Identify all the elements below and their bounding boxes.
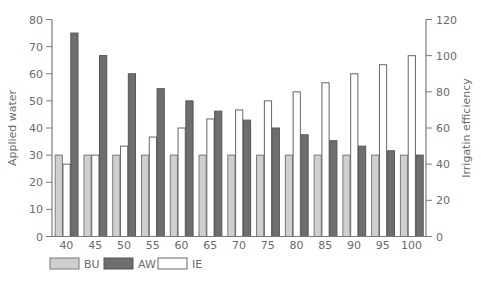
bar-bu-65 bbox=[199, 155, 206, 236]
left-tick-label: 40 bbox=[29, 122, 43, 135]
bar-bu-45 bbox=[84, 155, 91, 236]
bar-aw-65 bbox=[215, 111, 222, 236]
bar-group-55 bbox=[141, 89, 164, 237]
bar-group-85 bbox=[314, 83, 337, 237]
right-tick-label: 20 bbox=[436, 194, 450, 207]
bar-bu-80 bbox=[285, 155, 292, 236]
dual-axis-bar-chart: 01020304050607080 020406080100120 404550… bbox=[0, 0, 481, 284]
legend-label: BU bbox=[84, 258, 100, 271]
bar-ie-55 bbox=[149, 137, 156, 236]
bar-group-80 bbox=[285, 92, 308, 237]
legend-label: IE bbox=[192, 258, 202, 271]
bar-aw-60 bbox=[186, 101, 193, 237]
bar-aw-100 bbox=[416, 155, 423, 236]
legend-swatch bbox=[104, 258, 133, 269]
legend-item-bu: BU bbox=[50, 258, 100, 271]
bar-ie-45 bbox=[92, 155, 99, 236]
right-axis-title: Irrigatin efficiency bbox=[460, 78, 473, 178]
left-tick-label: 30 bbox=[29, 149, 43, 162]
bar-aw-40 bbox=[71, 33, 78, 236]
bar-aw-95 bbox=[387, 151, 394, 237]
bar-bu-55 bbox=[141, 155, 148, 236]
x-tick-label: 80 bbox=[290, 239, 304, 252]
right-tick-label: 0 bbox=[436, 231, 443, 244]
bar-group-45 bbox=[84, 56, 107, 237]
left-tick-label: 70 bbox=[29, 41, 43, 54]
bar-group-65 bbox=[199, 111, 222, 236]
bar-aw-85 bbox=[330, 141, 337, 237]
x-tick-label: 65 bbox=[203, 239, 217, 252]
right-tick-label: 80 bbox=[436, 86, 450, 99]
bar-group-95 bbox=[372, 65, 395, 237]
bar-bu-95 bbox=[372, 155, 379, 236]
bar-group-40 bbox=[55, 33, 78, 236]
bar-group-90 bbox=[343, 74, 366, 237]
x-tick-label: 45 bbox=[88, 239, 102, 252]
bar-bu-40 bbox=[55, 155, 62, 236]
bar-ie-60 bbox=[178, 128, 185, 237]
bar-aw-45 bbox=[100, 56, 107, 237]
left-tick-label: 60 bbox=[29, 68, 43, 81]
bar-aw-80 bbox=[301, 135, 308, 237]
bar-ie-85 bbox=[322, 83, 329, 237]
bar-group-100 bbox=[400, 56, 423, 237]
right-tick-label: 60 bbox=[436, 122, 450, 135]
left-axis-title: Applied water bbox=[6, 89, 19, 166]
right-tick-label: 120 bbox=[436, 14, 457, 27]
bar-group-70 bbox=[228, 110, 251, 237]
bar-ie-50 bbox=[121, 146, 128, 236]
legend-label: AW bbox=[138, 258, 156, 271]
bar-bu-75 bbox=[257, 155, 264, 236]
bar-aw-75 bbox=[272, 128, 279, 237]
bar-ie-90 bbox=[351, 74, 358, 237]
x-tick-label: 85 bbox=[318, 239, 332, 252]
bar-group-60 bbox=[170, 101, 193, 237]
x-tick-label: 40 bbox=[59, 239, 73, 252]
left-tick-label: 50 bbox=[29, 95, 43, 108]
x-tick-label: 95 bbox=[376, 239, 390, 252]
left-tick-label: 80 bbox=[29, 14, 43, 27]
x-tick-label: 60 bbox=[174, 239, 188, 252]
right-y-axis: 020406080100120 bbox=[426, 14, 457, 244]
bar-ie-70 bbox=[236, 110, 243, 237]
bar-bu-90 bbox=[343, 155, 350, 236]
legend: BUAWIE bbox=[50, 258, 202, 271]
x-tick-label: 100 bbox=[401, 239, 422, 252]
bar-bu-70 bbox=[228, 155, 235, 236]
bar-ie-80 bbox=[293, 92, 300, 237]
left-tick-label: 10 bbox=[29, 203, 43, 216]
right-tick-label: 100 bbox=[436, 50, 457, 63]
bar-bu-100 bbox=[400, 155, 407, 236]
left-tick-label: 0 bbox=[36, 231, 43, 244]
left-tick-label: 20 bbox=[29, 176, 43, 189]
bar-ie-100 bbox=[408, 56, 415, 237]
legend-item-aw: AW bbox=[104, 258, 156, 271]
x-tick-label: 90 bbox=[347, 239, 361, 252]
legend-swatch bbox=[158, 258, 187, 269]
bar-aw-90 bbox=[358, 146, 365, 236]
bar-ie-75 bbox=[264, 101, 271, 237]
x-tick-label: 75 bbox=[261, 239, 275, 252]
bar-bu-85 bbox=[314, 155, 321, 236]
x-tick-label: 70 bbox=[232, 239, 246, 252]
x-axis: 404550556065707580859095100 bbox=[52, 237, 426, 253]
legend-swatch bbox=[50, 258, 79, 269]
bar-bu-60 bbox=[170, 155, 177, 236]
bar-aw-70 bbox=[243, 120, 250, 236]
bar-aw-50 bbox=[128, 74, 135, 237]
bar-group-50 bbox=[113, 74, 136, 237]
bar-ie-95 bbox=[379, 65, 386, 237]
bar-groups bbox=[55, 33, 423, 236]
legend-item-ie: IE bbox=[158, 258, 202, 271]
right-tick-label: 40 bbox=[436, 158, 450, 171]
bar-bu-50 bbox=[113, 155, 120, 236]
bar-aw-55 bbox=[157, 89, 164, 237]
x-tick-label: 55 bbox=[146, 239, 160, 252]
left-y-axis: 01020304050607080 bbox=[29, 14, 52, 244]
bar-group-75 bbox=[257, 101, 280, 237]
x-tick-label: 50 bbox=[117, 239, 131, 252]
bar-ie-65 bbox=[207, 119, 214, 237]
bar-ie-40 bbox=[63, 164, 70, 236]
